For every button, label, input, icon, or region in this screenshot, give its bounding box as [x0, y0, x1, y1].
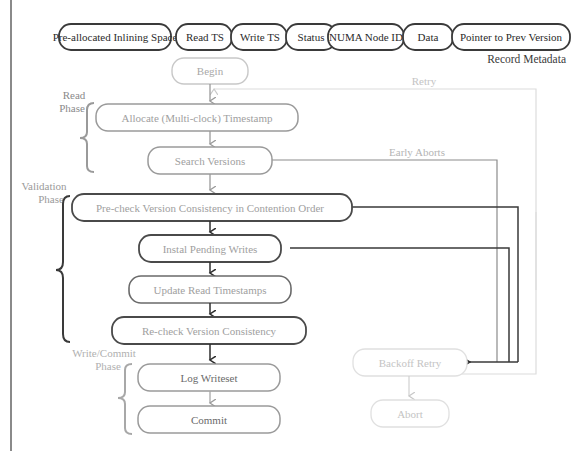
early-aborts-label: Early Aborts: [389, 146, 445, 158]
read-phase-group: Read Phase: [59, 89, 94, 172]
node-backoff-label: Backoff Retry: [379, 357, 442, 369]
node-allocate-label: Allocate (Multi-clock) Timestamp: [122, 112, 273, 125]
node-install-label: Instal Pending Writes: [163, 243, 258, 255]
write-commit-phase-label-1: Write/Commit: [72, 347, 136, 359]
node-search-label: Search Versions: [175, 155, 245, 167]
node-begin-label: Begin: [197, 65, 224, 77]
field-label: Data: [418, 31, 439, 43]
validation-phase-group: Validation Phase: [21, 180, 70, 342]
node-commit-label: Commit: [191, 414, 227, 426]
field-label: Pointer to Prev Version: [460, 31, 563, 43]
read-phase-label-2: Phase: [59, 102, 85, 114]
node-abort-label: Abort: [397, 408, 423, 420]
record-metadata-caption: Record Metadata: [487, 53, 566, 65]
flowchart: Pre-allocated Inlining Space Read TS Wri…: [0, 0, 579, 451]
node-precheck-label: Pre-check Version Consistency in Content…: [96, 202, 324, 214]
validation-phase-label-1: Validation: [21, 180, 67, 192]
node-update-label: Update Read Timestamps: [153, 284, 266, 296]
diagram-canvas: Pre-allocated Inlining Space Read TS Wri…: [0, 0, 579, 451]
retry-label: Retry: [412, 75, 437, 87]
field-label: Write TS: [240, 31, 280, 43]
field-label: Pre-allocated Inlining Space: [53, 31, 178, 43]
validation-phase-label-2: Phase: [38, 193, 64, 205]
node-recheck-label: Re-check Version Consistency: [142, 325, 277, 337]
field-label: Status: [298, 31, 325, 43]
write-commit-phase-label-2: Phase: [95, 360, 121, 372]
record-metadata: Pre-allocated Inlining Space Read TS Wri…: [53, 24, 570, 65]
abort-edges: [290, 207, 518, 362]
write-commit-phase-brace: [118, 364, 132, 434]
field-label: NUMA Node ID: [329, 31, 403, 43]
node-log-label: Log Writeset: [180, 372, 237, 384]
field-label: Read TS: [186, 31, 224, 43]
left-border-rule: [10, 0, 12, 451]
write-commit-phase-group: Write/Commit Phase: [72, 347, 136, 434]
read-phase-label-1: Read: [63, 89, 86, 101]
validation-phase-brace: [56, 196, 70, 342]
